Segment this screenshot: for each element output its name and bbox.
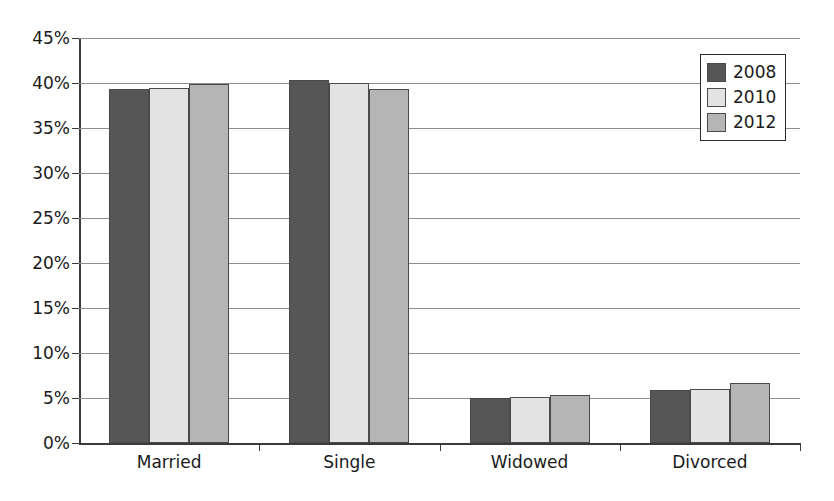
bar-group (259, 38, 439, 443)
legend-item-2010: 2010 (707, 85, 776, 110)
bar-single-2008 (289, 80, 329, 443)
x-axis-tick (440, 443, 441, 451)
bar-divorced-2012 (730, 383, 770, 443)
bar-married-2010 (149, 88, 189, 443)
y-axis-tick-label: 0% (8, 433, 70, 453)
y-tick-30% (72, 173, 79, 174)
bar-widowed-2008 (470, 398, 510, 443)
legend-swatch-icon (707, 88, 726, 107)
y-tick-25% (72, 218, 79, 219)
x-axis-category-label: Widowed (440, 452, 620, 472)
bar-group (440, 38, 620, 443)
y-tick-35% (72, 128, 79, 129)
y-tick-20% (72, 263, 79, 264)
legend-swatch-icon (707, 113, 726, 132)
y-tick-15% (72, 308, 79, 309)
bar-group (79, 38, 259, 443)
y-tick-10% (72, 353, 79, 354)
legend-item-2008: 2008 (707, 60, 776, 85)
bar-chart: 0%5%10%15%20%25%30%35%40%45% 20082010201… (0, 0, 834, 501)
x-axis-category-label: Married (79, 452, 259, 472)
bar-divorced-2008 (650, 390, 690, 443)
y-axis-tick-label: 40% (8, 73, 70, 93)
legend-label: 2010 (733, 89, 776, 106)
legend-label: 2012 (733, 114, 776, 131)
legend-swatch-icon (707, 63, 726, 82)
x-axis-category-label: Single (259, 452, 439, 472)
chart-legend: 200820102012 (700, 54, 786, 141)
bar-widowed-2010 (510, 397, 550, 443)
bar-single-2012 (369, 89, 409, 443)
y-tick-0% (72, 443, 79, 444)
y-axis-tick-label: 10% (8, 343, 70, 363)
plot-area (79, 38, 800, 443)
legend-item-2012: 2012 (707, 110, 776, 135)
bar-single-2010 (329, 83, 369, 443)
bar-married-2012 (189, 84, 229, 443)
y-tick-40% (72, 83, 79, 84)
y-axis-tick-label: 20% (8, 253, 70, 273)
y-axis-labels: 0%5%10%15%20%25%30%35%40%45% (0, 0, 70, 501)
y-axis-tick-label: 35% (8, 118, 70, 138)
x-axis-tick (259, 443, 260, 451)
y-axis-tick-label: 30% (8, 163, 70, 183)
bar-widowed-2012 (550, 395, 590, 443)
x-axis-tick (620, 443, 621, 451)
y-axis-tick-label: 15% (8, 298, 70, 318)
bar-married-2008 (109, 89, 149, 443)
y-axis-tick-label: 5% (8, 388, 70, 408)
x-axis-tick (800, 443, 801, 451)
y-axis-tick-label: 45% (8, 28, 70, 48)
y-tick-45% (72, 38, 79, 39)
legend-label: 2008 (733, 64, 776, 81)
bar-divorced-2010 (690, 389, 730, 443)
y-axis-tick-label: 25% (8, 208, 70, 228)
x-axis-category-label: Divorced (620, 452, 800, 472)
y-tick-5% (72, 398, 79, 399)
